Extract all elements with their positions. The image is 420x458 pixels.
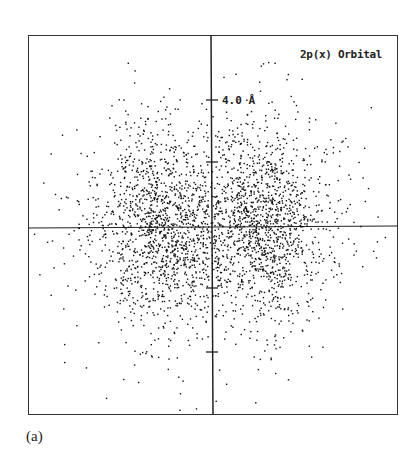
y-axis: [211, 35, 213, 415]
plot-title: 2p(x) Orbital: [300, 48, 382, 61]
figure-caption: (a): [26, 428, 43, 445]
scale-label: 4.0 Å: [222, 94, 255, 107]
orbital-scatter-plot: [0, 0, 420, 458]
probability-dots: [34, 62, 386, 411]
x-axis: [28, 226, 398, 228]
